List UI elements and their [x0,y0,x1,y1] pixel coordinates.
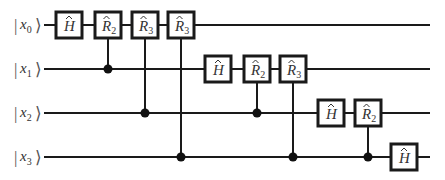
control-dot [364,153,373,162]
gate-r3-q0: R3 [132,12,158,38]
qubit-label-sub: 1 [27,68,32,79]
ket-close: ⟩ [35,60,42,79]
control-dot [141,109,150,118]
ket-close: ⟩ [35,104,42,123]
control-dot [289,153,298,162]
qubit-label-text: x3 [19,148,32,167]
ket-close: ⟩ [35,16,42,35]
qubit-label-1: |x1⟩ [14,60,42,79]
ket-open: | [14,60,17,79]
ket-open: | [14,16,17,35]
gate-h-q2: H [318,100,344,126]
gates: HR2R3R3HR2R3HR2H [56,12,417,170]
gate-symbol: H [398,150,411,166]
gate-r2-q0: R2 [95,12,121,38]
gate-r2-q1: R2 [244,56,270,82]
qubit-label-2: |x2⟩ [14,104,42,123]
control-dot [177,153,186,162]
qubit-label-3: |x3⟩ [14,148,42,167]
gate-symbol: H [325,106,338,122]
gate-subscript: 2 [111,25,116,36]
gate-subscript: 3 [148,25,153,36]
qubit-label-sub: 2 [27,112,32,123]
qubit-label-0: |x0⟩ [14,16,42,35]
qubit-wires [44,25,430,157]
ket-open: | [14,148,17,167]
qubit-labels: |x0⟩|x1⟩|x2⟩|x3⟩ [14,16,42,167]
gate-r3-q1: R3 [280,56,306,82]
gate-subscript: 2 [371,113,376,124]
gate-symbol: H [63,18,76,34]
gate-h-q3: H [391,144,417,170]
gate-subscript: 2 [260,69,265,80]
gate-h-q1: H [205,56,231,82]
qubit-label-text: x0 [19,16,32,35]
gate-r3-q0: R3 [168,12,194,38]
gate-h-q0: H [56,12,82,38]
qubit-label-text: x2 [19,104,32,123]
gate-symbol: H [212,62,225,78]
gate-subscript: 3 [184,25,189,36]
gate-r2-q2: R2 [355,100,381,126]
qubit-label-text: x1 [19,60,32,79]
quantum-circuit: HR2R3R3HR2R3HR2H |x0⟩|x1⟩|x2⟩|x3⟩ [0,0,445,180]
ket-open: | [14,104,17,123]
control-dot [253,109,262,118]
control-dot [104,65,113,74]
qubit-label-sub: 3 [27,156,32,167]
gate-subscript: 3 [296,69,301,80]
qubit-label-sub: 0 [27,24,32,35]
ket-close: ⟩ [35,148,42,167]
